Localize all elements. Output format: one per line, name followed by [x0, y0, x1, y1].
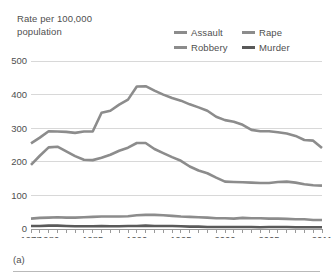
svg-text:1980: 1980 — [38, 234, 59, 238]
figure-container: Rate per 100,000 population Assault Rape… — [0, 0, 334, 278]
gridlines — [31, 61, 322, 229]
figure-caption: (a) — [13, 254, 25, 265]
y-axis-title: Rate per 100,000 population — [17, 13, 167, 38]
svg-text:0: 0 — [22, 223, 27, 234]
svg-text:2000: 2000 — [214, 234, 235, 238]
svg-text:2011: 2011 — [312, 234, 332, 238]
svg-text:100: 100 — [11, 190, 27, 201]
svg-text:200: 200 — [11, 156, 27, 167]
legend-label-assault: Assault — [191, 27, 223, 38]
svg-text:1985: 1985 — [82, 234, 103, 238]
svg-text:500: 500 — [11, 55, 27, 66]
legend-label-rape: Rape — [259, 27, 282, 38]
data-series-lines — [31, 86, 322, 227]
svg-text:2005: 2005 — [259, 234, 280, 238]
svg-text:400: 400 — [11, 89, 27, 100]
x-axis-tick-labels: 19781980198519901995200020052011 — [20, 234, 332, 238]
x-axis-tickmarks — [31, 229, 322, 233]
y-axis-tick-labels: 0100200300400500 — [11, 55, 27, 234]
svg-text:300: 300 — [11, 123, 27, 134]
legend-swatch-rape — [242, 31, 255, 34]
svg-text:1995: 1995 — [170, 234, 191, 238]
line-chart-svg: 0100200300400500 19781980198519901995200… — [0, 48, 334, 238]
legend-item-assault: Assault — [174, 27, 242, 38]
svg-text:1990: 1990 — [126, 234, 147, 238]
bottom-divider — [13, 271, 320, 272]
legend-swatch-assault — [174, 31, 187, 34]
plot-area: 0100200300400500 19781980198519901995200… — [0, 48, 334, 238]
legend-item-rape: Rape — [242, 27, 332, 38]
